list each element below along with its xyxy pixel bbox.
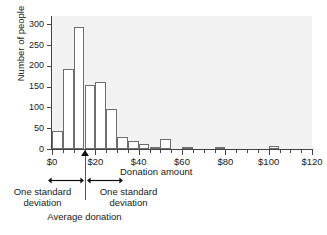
histogram-bar [160, 139, 171, 149]
x-axis-minor-tick [171, 150, 172, 153]
x-axis-minor-tick [280, 150, 281, 153]
y-axis-tick [47, 24, 52, 25]
average-donation-line [85, 156, 86, 200]
histogram-bar [74, 27, 85, 149]
y-axis-tick-label: 100 [0, 103, 44, 112]
y-axis-tick [47, 107, 52, 108]
histogram-bar [117, 137, 128, 149]
histogram-bar [128, 141, 139, 149]
y-axis-tick-label: 150 [0, 82, 44, 91]
histogram-bar [95, 82, 106, 149]
x-axis-major-tick [139, 150, 140, 155]
x-axis-title: Donation amount [120, 166, 192, 177]
x-axis-minor-tick [117, 150, 118, 153]
y-axis-tick [47, 66, 52, 67]
std-dev-right-arrow-icon [87, 177, 123, 184]
std-dev-right-label-line2: deviation [87, 197, 171, 208]
x-axis-major-tick [225, 150, 226, 155]
x-axis-minor-tick [63, 150, 64, 153]
y-axis-tick-label: 300 [0, 20, 44, 29]
std-dev-left-arrow-icon [48, 177, 84, 184]
std-dev-left-label-line2: deviation [1, 197, 85, 208]
y-axis-tick-label: 50 [0, 124, 44, 133]
x-axis-minor-tick [74, 150, 75, 153]
y-axis-tick-label: 0 [0, 145, 44, 154]
histogram-bar [106, 109, 117, 149]
x-axis-minor-tick [150, 150, 151, 153]
x-axis-tick-label: $120 [292, 156, 327, 167]
plot-area [52, 16, 312, 149]
x-axis-minor-tick [215, 150, 216, 153]
x-axis-tick-label: $0 [32, 156, 72, 167]
y-axis-tick [47, 128, 52, 129]
x-axis-minor-tick [160, 150, 161, 153]
histogram-bar [52, 131, 63, 149]
x-axis-minor-tick [236, 150, 237, 153]
x-axis-major-tick [269, 150, 270, 155]
y-axis-tick [47, 87, 52, 88]
x-axis-tick-label: $20 [75, 156, 115, 167]
x-axis-minor-tick [106, 150, 107, 153]
x-axis-minor-tick [290, 150, 291, 153]
x-axis-tick-label: $80 [205, 156, 245, 167]
x-axis-major-tick [95, 150, 96, 155]
x-axis-minor-tick [247, 150, 248, 153]
std-dev-right-label-line1: One standard [87, 186, 171, 197]
x-axis-tick-label: $100 [249, 156, 289, 167]
x-axis-minor-tick [301, 150, 302, 153]
y-axis-tick-label: 250 [0, 41, 44, 50]
x-axis-minor-tick [204, 150, 205, 153]
x-axis-major-tick [182, 150, 183, 155]
histogram-bar [85, 85, 96, 149]
histogram-bar [63, 69, 74, 149]
x-axis-major-tick [312, 150, 313, 155]
y-axis-tick-label: 200 [0, 61, 44, 70]
x-axis-minor-tick [128, 150, 129, 153]
y-axis-tick [47, 45, 52, 46]
x-axis-minor-tick [193, 150, 194, 153]
x-axis-major-tick [52, 150, 53, 155]
x-axis-minor-tick [258, 150, 259, 153]
std-dev-left-label-line1: One standard [1, 186, 85, 197]
average-donation-label: Average donation [35, 211, 135, 222]
